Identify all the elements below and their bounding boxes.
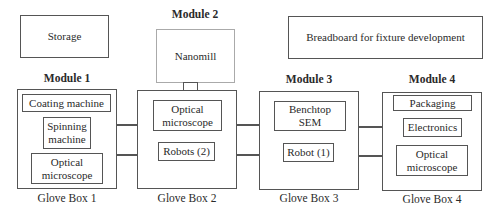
packaging-label: Packaging [410, 97, 456, 110]
robot-1-box: Robot (1) [283, 143, 334, 162]
glove-box-1-caption: Glove Box 1 [17, 192, 117, 204]
connector-2-3-bottom [236, 154, 260, 156]
electronics-box: Electronics [403, 118, 462, 137]
optical-microscope-4-label: Optical microscope [399, 148, 465, 174]
benchtop-sem-box: Benchtop SEM [274, 101, 346, 131]
packaging-box: Packaging [393, 95, 472, 111]
glove-box-2-caption: Glove Box 2 [137, 192, 237, 204]
breadboard-label: Breadboard for fixture development [306, 31, 465, 44]
spinning-machine-box: Spinning machine [43, 117, 91, 149]
connector-2-3-top [236, 124, 260, 126]
connector-3-4-top [357, 126, 383, 128]
storage-label: Storage [48, 30, 82, 43]
optical-microscope-1-label: Optical microscope [34, 156, 100, 182]
module-2-label: Module 2 [145, 8, 245, 20]
nanomill-label: Nanomill [175, 50, 217, 63]
glove-box-2: Optical microscope Robots (2) [137, 90, 237, 189]
nanomill-box: Nanomill [156, 29, 235, 83]
module-1-label: Module 1 [17, 72, 117, 84]
module-3-label: Module 3 [259, 73, 359, 85]
robots-2-label: Robots (2) [163, 145, 210, 158]
coating-machine-label: Coating machine [29, 97, 104, 110]
glove-box-3: Benchtop SEM Robot (1) [259, 91, 359, 190]
glove-box-4: Packaging Electronics Optical microscope [382, 92, 482, 191]
glove-box-4-caption: Glove Box 4 [382, 193, 482, 205]
optical-microscope-2-box: Optical microscope [153, 100, 222, 131]
benchtop-sem-label: Benchtop SEM [277, 103, 343, 129]
storage-box: Storage [20, 15, 109, 58]
spinning-machine-label: Spinning machine [46, 120, 88, 146]
optical-microscope-2-label: Optical microscope [156, 103, 219, 129]
electronics-label: Electronics [408, 121, 457, 134]
glove-box-1: Coating machine Spinning machine Optical… [17, 89, 117, 189]
optical-microscope-1-box: Optical microscope [31, 153, 103, 184]
module-4-label: Module 4 [382, 73, 482, 85]
connector-3-4-bottom [357, 155, 383, 157]
robots-2-box: Robots (2) [158, 142, 215, 161]
robot-1-label: Robot (1) [287, 146, 329, 159]
connector-1-2-bottom [116, 154, 138, 156]
glove-box-3-caption: Glove Box 3 [259, 192, 359, 204]
coating-machine-box: Coating machine [22, 94, 111, 112]
optical-microscope-4-box: Optical microscope [396, 145, 468, 176]
connector-1-2-top [116, 124, 138, 126]
breadboard-box: Breadboard for fixture development [288, 16, 483, 59]
